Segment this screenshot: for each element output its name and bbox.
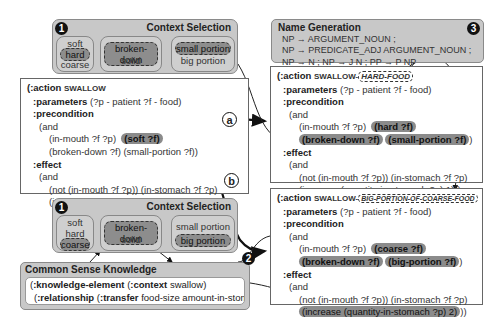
parameters-value: (?p - patient ?f - food) bbox=[340, 206, 431, 217]
generated-name-suffix: HARD-FOOD bbox=[358, 71, 413, 82]
pre-in-mouth: (in-mouth ?f ?p) bbox=[299, 243, 366, 254]
portion-group: small portion big portion bbox=[171, 36, 235, 72]
and-clause: (and bbox=[277, 159, 482, 172]
transfer-value: food-size amount-in-stomach))) bbox=[141, 292, 245, 303]
precondition-keyword: :precondition bbox=[277, 96, 482, 109]
precondition-keyword: :precondition bbox=[27, 108, 248, 121]
context-selection-bottom: 1 Context Selection soft hard coarse bro… bbox=[52, 198, 238, 253]
effect-not-in-mouth: (not (in-mouth ?f ?p)) (in-stomach ?f ?p… bbox=[277, 294, 482, 307]
and-clause: (and bbox=[277, 281, 482, 294]
highlight-increase: (increase (quantity-in-stomach ?p) 2) bbox=[299, 306, 460, 317]
pre-in-mouth: (in-mouth ?f ?p) bbox=[299, 121, 366, 132]
and-clause: (and bbox=[27, 171, 248, 184]
closing-paren: ) bbox=[459, 256, 462, 267]
effect-not-in-mouth: (not (in-mouth ?f ?p)) (in-stomach ?f ?p… bbox=[277, 172, 482, 185]
action-keyword: (:action bbox=[277, 70, 311, 81]
highlight-broken-down: (broken-down ?f) bbox=[299, 256, 383, 267]
texture-group: soft hard coarse bbox=[56, 215, 94, 251]
option-coarse[interactable]: coarse bbox=[57, 59, 93, 70]
highlight-small-portion: (small-portion ?f) bbox=[385, 134, 469, 145]
effect-not-in-mouth: (not (in-mouth ?f ?p)) (in-stomach ?f ?p… bbox=[27, 184, 248, 197]
label-b: b bbox=[224, 173, 239, 188]
closing-paren: )) bbox=[460, 306, 466, 317]
label-a: a bbox=[222, 112, 237, 127]
and-clause: (and bbox=[277, 231, 482, 244]
action-name: SWALLOW bbox=[64, 84, 106, 93]
action-name: SWALLOW- bbox=[314, 194, 358, 203]
option-soft[interactable]: soft bbox=[57, 217, 93, 228]
common-sense-knowledge: Common Sense Knowledge 2 (:knowledge-ele… bbox=[20, 262, 250, 310]
action-keyword: (:action bbox=[277, 192, 311, 203]
option-solid[interactable]: solid bbox=[101, 234, 161, 245]
knowledge-element-keyword: :knowledge-element bbox=[33, 279, 124, 290]
transfer-keyword: :transfer bbox=[100, 292, 139, 303]
action-swallow-hard-food: (:action SWALLOW-HARD-FOOD :parameters (… bbox=[270, 66, 483, 183]
context-keyword: :context bbox=[130, 279, 167, 290]
generated-name-suffix: BIG-PORTION-OF-COARSE-FOOD bbox=[358, 194, 477, 203]
context-selection-top: 1 Context Selection soft hard coarse bro… bbox=[52, 19, 238, 74]
highlight-coarse: (coarse ?f) bbox=[371, 243, 426, 254]
pre-broken-down-small-portion: (broken-down ?f) (small-portion ?f)) bbox=[27, 146, 248, 159]
rule-line: NP → PREDICATE_ADJ ARGUMENT_NOUN ; bbox=[278, 45, 477, 57]
highlight-broken-down: (broken-down ?f) bbox=[299, 134, 383, 145]
portion-group: small portion big portion bbox=[171, 215, 235, 251]
option-coarse-selected[interactable]: coarse bbox=[60, 238, 90, 251]
parameters-keyword: :parameters bbox=[283, 206, 337, 217]
option-small-portion-selected[interactable]: small portion bbox=[175, 42, 231, 55]
state-group: broken-down solid bbox=[100, 36, 162, 72]
action-name: SWALLOW- bbox=[314, 72, 358, 81]
action-keyword: (:action bbox=[27, 82, 61, 93]
parameters-value: (?p - patient ?f - food) bbox=[340, 84, 431, 95]
pre-in-mouth: (in-mouth ?f ?p) bbox=[49, 133, 116, 144]
csk-content: (:knowledge-element (:context swallow) (… bbox=[25, 277, 245, 305]
rule-line: NP → ARGUMENT_NOUN ; bbox=[278, 34, 477, 46]
highlight-hard: (hard ?f) bbox=[371, 121, 416, 132]
state-group: broken-down solid bbox=[100, 215, 162, 251]
effect-keyword: :effect bbox=[277, 147, 482, 160]
closing-paren: ) bbox=[469, 134, 472, 145]
and-clause: (and bbox=[27, 121, 248, 134]
effect-keyword: :effect bbox=[277, 269, 482, 282]
option-big-portion-selected[interactable]: big portion bbox=[175, 234, 231, 247]
step-badge: 2 bbox=[242, 252, 255, 265]
option-small-portion[interactable]: small portion bbox=[172, 221, 234, 232]
option-big-portion[interactable]: big portion bbox=[172, 55, 234, 66]
source-action-swallow: (:action SWALLOW :parameters (?p - patie… bbox=[20, 78, 249, 194]
effect-keyword: :effect bbox=[27, 159, 248, 172]
parameters-value: (?p - patient ?f - food) bbox=[90, 96, 181, 107]
step-badge: 1 bbox=[55, 201, 68, 214]
context-selection-title: Context Selection bbox=[147, 201, 231, 212]
context-selection-title: Context Selection bbox=[147, 22, 231, 33]
name-generation: Name Generation 3 NP → ARGUMENT_NOUN ; N… bbox=[271, 19, 484, 63]
relationship-keyword: :relationship bbox=[37, 292, 94, 303]
texture-group: soft hard coarse bbox=[56, 36, 94, 72]
parameters-keyword: :parameters bbox=[33, 96, 87, 107]
csk-title: Common Sense Knowledge bbox=[25, 264, 157, 275]
precondition-keyword: :precondition bbox=[277, 218, 482, 231]
step-badge: 3 bbox=[467, 22, 480, 35]
highlight-soft: (soft ?f) bbox=[121, 133, 162, 144]
and-clause: (and bbox=[277, 109, 482, 122]
parameters-keyword: :parameters bbox=[283, 84, 337, 95]
option-solid[interactable]: solid bbox=[101, 55, 161, 66]
step-badge: 1 bbox=[55, 22, 68, 35]
name-generation-title: Name Generation bbox=[278, 22, 477, 34]
context-value: swallow) bbox=[170, 279, 206, 290]
action-swallow-big-portion-of-coarse-food: (:action SWALLOW-BIG-PORTION-OF-COARSE-F… bbox=[270, 188, 483, 305]
highlight-big-portion: (big-portion ?f) bbox=[385, 256, 459, 267]
